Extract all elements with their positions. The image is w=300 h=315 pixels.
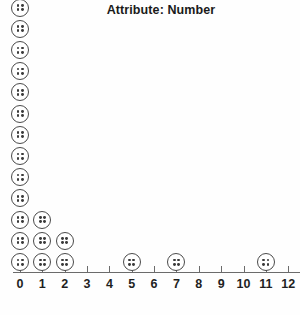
dot-pip-grid [17,4,24,11]
x-axis-tick-label: 4 [97,277,121,291]
dot-pip [43,263,46,266]
dot-pip [17,241,20,244]
chart-title: Attribute: Number [86,3,236,17]
x-axis-tick-mark [288,266,289,273]
dot-pip [21,241,24,244]
dot-pip-grid [17,195,24,202]
dot-pip [177,263,180,266]
dot-pip [21,178,24,181]
button-dot-icon [33,232,51,250]
dot-pip [262,259,265,262]
x-axis-tick-mark [87,266,88,273]
dot-pip [21,89,24,92]
dot-pip [17,110,20,113]
x-axis-line [13,272,300,273]
dot-pip-grid [39,216,46,223]
dot-pip [21,195,24,198]
dot-pip [65,263,68,266]
dot-pip-grid [17,259,24,266]
dot-pip [17,178,20,181]
dot-pip-grid [173,259,180,266]
dot-pip-grid [17,153,24,160]
dot-pip [173,263,176,266]
dot-pip [21,93,24,96]
dot-pip [61,237,64,240]
dot-pip [128,263,131,266]
dot-pip-grid [17,174,24,181]
dot-pip [61,241,64,244]
dot-pip [21,199,24,202]
dot-pip [17,157,20,160]
dot-pip [17,153,20,156]
button-dot-icon [11,253,29,271]
button-dot-icon [56,253,74,271]
dot-pip [21,131,24,134]
dot-pip [267,259,270,262]
x-axis-tick-label: 1 [30,277,54,291]
dot-pip [21,25,24,28]
dot-pip [21,47,24,50]
dot-pip [17,220,20,223]
dot-pip [17,195,20,198]
dot-pip-grid [39,259,46,266]
dot-pip [21,29,24,32]
x-axis-tick-mark [154,266,155,273]
x-axis-tick-mark [221,266,222,273]
dot-pip [61,259,64,262]
x-axis-tick-mark [109,266,110,273]
dot-pip [17,93,20,96]
dot-pip [132,263,135,266]
dot-pip [65,259,68,262]
dot-pip [262,263,265,266]
x-axis-tick-label: 10 [232,277,256,291]
x-axis-tick-label: 5 [120,277,144,291]
button-dot-icon [11,126,29,144]
dot-pip-grid [17,237,24,244]
dot-pip [21,135,24,138]
x-axis-tick-label: 12 [276,277,300,291]
dot-pip [39,237,42,240]
x-axis-tick-label: 2 [53,277,77,291]
dot-pip [128,259,131,262]
dot-pip [21,110,24,113]
dot-pip-grid [17,110,24,117]
x-axis-tick-label: 8 [187,277,211,291]
dot-pip-grid [39,237,46,244]
dot-pip [17,216,20,219]
dot-pip [17,259,20,262]
dot-pip [17,68,20,71]
button-dot-icon [167,253,185,271]
x-axis-tick-label: 0 [8,277,32,291]
dot-pip [17,4,20,7]
dot-pip [17,72,20,75]
x-axis-tick-label: 6 [142,277,166,291]
dot-pip [21,72,24,75]
button-dot-icon [11,189,29,207]
dot-pip [17,199,20,202]
dot-pip [43,220,46,223]
x-axis-tick-label: 9 [209,277,233,291]
dot-pip-grid [17,131,24,138]
dot-pip-grid [262,259,269,266]
x-axis-tick-label: 7 [164,277,188,291]
dot-pip [43,237,46,240]
dot-pip [132,259,135,262]
dot-pip [65,241,68,244]
button-dot-icon [11,211,29,229]
dot-pip [65,237,68,240]
dot-plot-chart: Attribute: Number 0123456789101112 [0,0,300,315]
dot-pip [17,47,20,50]
dot-pip-grid [17,89,24,96]
dot-pip [39,216,42,219]
dot-pip [21,68,24,71]
dot-pip [17,263,20,266]
dot-pip [17,8,20,11]
button-dot-icon [11,105,29,123]
dot-pip [17,131,20,134]
dot-pip [21,51,24,54]
dot-pip-grid [17,68,24,75]
dot-pip [43,216,46,219]
dot-pip [173,259,176,262]
dot-pip [21,259,24,262]
dot-pip-grid [17,47,24,54]
